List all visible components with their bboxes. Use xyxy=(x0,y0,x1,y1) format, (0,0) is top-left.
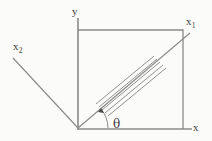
rotated-axis-x1-label-base: x xyxy=(186,15,192,27)
rotated-axis-x1-line xyxy=(78,33,190,128)
rotated-axis-x2-label-subscript: 2 xyxy=(19,46,23,55)
hatch-line xyxy=(102,62,160,110)
rotated-axis-x2-label: x2 xyxy=(13,41,22,55)
rotated-axis-x2-line xyxy=(13,58,78,128)
rotated-axis-x1-label-subscript: 1 xyxy=(192,21,196,30)
diagram-svg xyxy=(0,0,212,141)
y-axis-label: y xyxy=(72,6,78,17)
angle-theta-label: θ xyxy=(113,118,120,130)
rotated-axis-x1-label: x1 xyxy=(186,16,195,30)
hatch-line-group xyxy=(96,56,166,116)
rotated-axis-x2-label-base: x xyxy=(13,40,19,52)
x-axis-label: x xyxy=(193,122,199,133)
diagram-canvas: y x x1 x2 θ xyxy=(0,0,212,141)
